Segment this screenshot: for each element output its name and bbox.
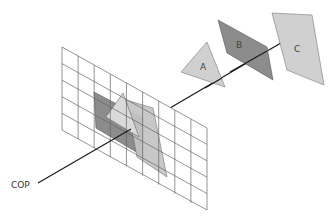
projection-diagram: C B A (0, 0, 333, 220)
object-a-label: A (200, 62, 207, 72)
object-b-parallelogram (218, 20, 273, 80)
object-c-label: C (294, 44, 300, 54)
object-b-label: B (236, 40, 242, 50)
cop-label: COP (11, 180, 30, 190)
